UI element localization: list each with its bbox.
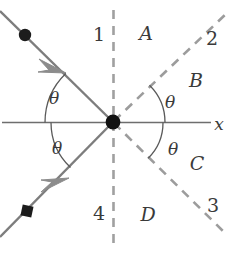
physics-diagram: 1 A 2 B x C 3 4 D θ θ θ θ — [0, 0, 234, 254]
region-label-C: C — [190, 154, 205, 173]
theta-label-lower-left: θ — [52, 140, 62, 157]
x-axis-label: x — [214, 116, 224, 133]
region-label-A: A — [139, 24, 153, 43]
theta-label-lower-right: θ — [168, 141, 178, 158]
region-label-1: 1 — [93, 25, 105, 44]
region-label-D: D — [140, 205, 155, 224]
particle-dot-lower-left — [20, 204, 33, 217]
origin-dot — [106, 115, 121, 130]
theta-label-upper-left: θ — [49, 90, 59, 107]
theta-label-upper-right: θ — [165, 94, 175, 111]
region-label-2: 2 — [206, 29, 218, 48]
particle-dot-upper-left — [19, 29, 31, 41]
arc-theta-upper-right — [150, 85, 166, 122]
arrowhead-incoming-lower — [41, 178, 69, 192]
region-label-B: B — [189, 71, 203, 90]
region-label-3: 3 — [207, 196, 219, 215]
region-label-4: 4 — [93, 204, 105, 223]
diagram-canvas — [0, 0, 234, 254]
arc-theta-lower-right — [148, 123, 163, 159]
